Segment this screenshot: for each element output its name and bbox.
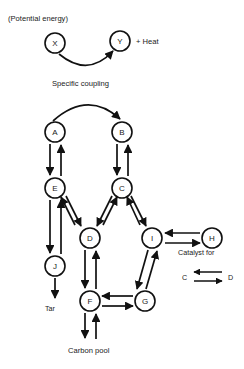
node-d-label: D bbox=[87, 234, 93, 243]
edge-a-to-b bbox=[53, 105, 120, 121]
node-b-label: B bbox=[119, 128, 124, 137]
node-a-label: A bbox=[52, 128, 58, 137]
node-d[interactable]: D bbox=[80, 228, 100, 248]
catalyst-for-label: Catalyst for bbox=[178, 248, 215, 257]
node-y[interactable]: Y bbox=[110, 31, 130, 51]
tar-label: Tar bbox=[45, 304, 56, 313]
edge-x-to-y bbox=[59, 51, 113, 65]
node-i-label: I bbox=[151, 234, 153, 243]
node-a[interactable]: A bbox=[45, 122, 65, 142]
node-b[interactable]: B bbox=[112, 122, 132, 142]
node-y-label: Y bbox=[117, 37, 123, 46]
plus-heat-label: + Heat bbox=[136, 37, 159, 46]
node-g[interactable]: G bbox=[135, 291, 155, 311]
node-f[interactable]: F bbox=[80, 291, 100, 311]
catalyst-product-d: D bbox=[228, 273, 233, 282]
node-i[interactable]: I bbox=[142, 228, 162, 248]
node-e-label: E bbox=[52, 184, 57, 193]
catalyst-reactant-c: C bbox=[182, 273, 187, 282]
node-h[interactable]: H bbox=[202, 228, 222, 248]
potential-energy-label: (Potential energy) bbox=[8, 14, 68, 23]
reaction-network-diagram: (Potential energy) + Heat Specific coupl… bbox=[0, 0, 244, 369]
node-h-label: H bbox=[209, 234, 215, 243]
node-c[interactable]: C bbox=[112, 178, 132, 198]
edge-g-to-i bbox=[146, 251, 157, 289]
edge-i-to-g bbox=[137, 250, 148, 289]
node-j[interactable]: J bbox=[45, 256, 65, 276]
node-e[interactable]: E bbox=[45, 178, 65, 198]
node-x-label: X bbox=[52, 39, 58, 48]
node-g-label: G bbox=[142, 297, 148, 306]
node-c-label: C bbox=[119, 184, 125, 193]
node-j-label: J bbox=[53, 262, 57, 271]
specific-coupling-label: Specific coupling bbox=[52, 79, 109, 88]
node-x[interactable]: X bbox=[45, 33, 65, 53]
carbon-pool-label: Carbon pool bbox=[68, 346, 110, 355]
node-f-label: F bbox=[88, 297, 93, 306]
